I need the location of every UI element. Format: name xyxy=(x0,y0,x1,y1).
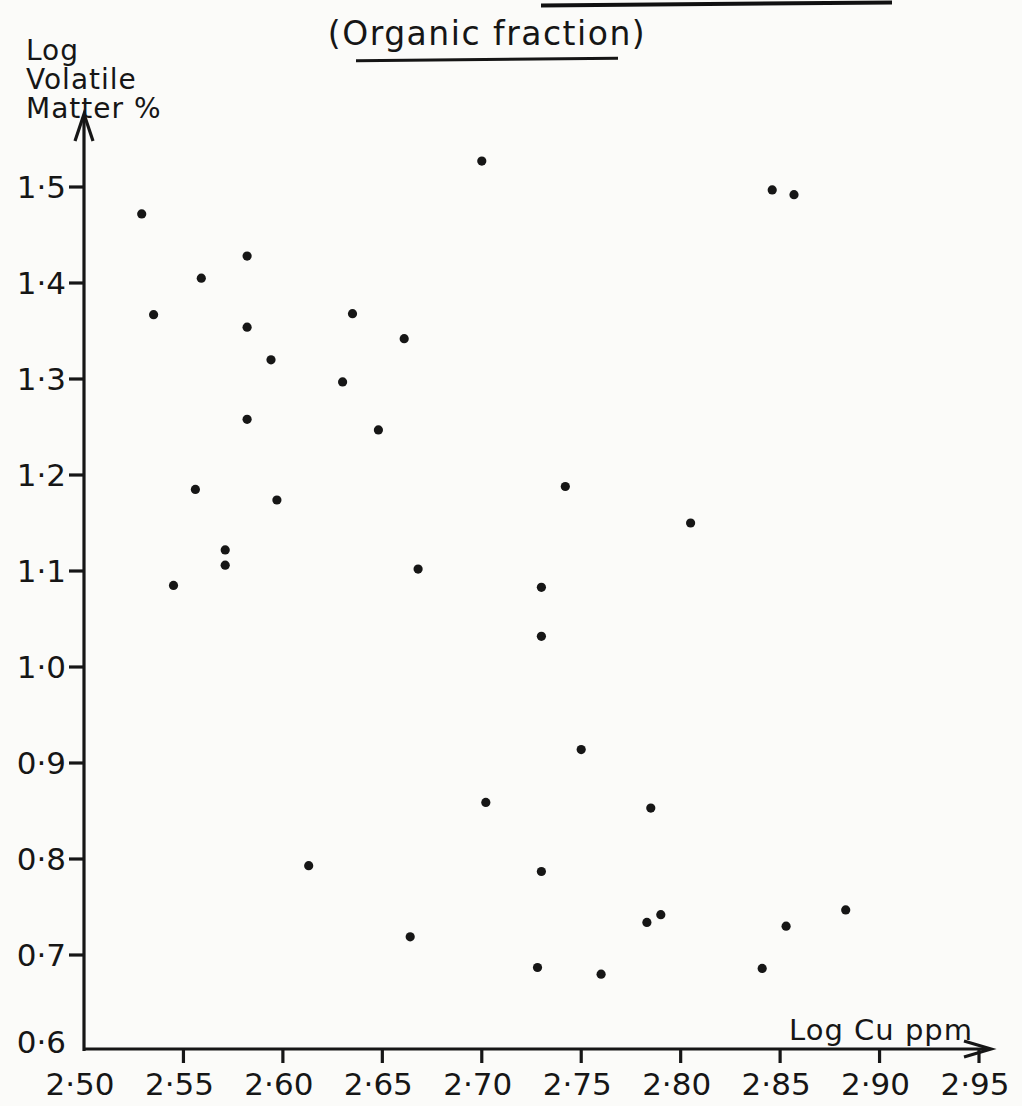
scatter-plot: Log Cu ppm 2·502·552·602·652·702·752·802… xyxy=(0,0,1022,1106)
data-point xyxy=(577,745,586,754)
data-point xyxy=(561,482,570,491)
data-point xyxy=(477,157,486,166)
x-tick-label: 2·70 xyxy=(443,1066,512,1102)
x-tick-label: 2·80 xyxy=(642,1066,711,1102)
y-tick-label: 1·1 xyxy=(17,553,66,589)
data-point xyxy=(272,495,281,504)
data-point xyxy=(782,922,791,931)
x-tick-label: 2·50 xyxy=(45,1066,114,1102)
y-tick-label: 1·4 xyxy=(17,265,66,301)
data-point xyxy=(597,970,606,979)
data-point xyxy=(533,963,542,972)
data-point xyxy=(400,334,409,343)
data-point xyxy=(789,190,798,199)
data-point xyxy=(191,485,200,494)
y-tick-label: 1·2 xyxy=(17,457,66,493)
x-axis-title: Log Cu ppm xyxy=(789,1013,973,1047)
x-tick-label: 2·85 xyxy=(742,1066,811,1102)
x-tick-label: 2·75 xyxy=(543,1066,612,1102)
x-tick-label: 2·90 xyxy=(841,1066,910,1102)
data-point xyxy=(348,309,357,318)
data-point xyxy=(758,964,767,973)
y-tick-label: 1·3 xyxy=(17,361,66,397)
data-point xyxy=(169,581,178,590)
data-point xyxy=(686,518,695,527)
data-point xyxy=(338,377,347,386)
data-point xyxy=(537,632,546,641)
y-tick-group: 0·60·70·80·91·01·11·21·31·41·5 xyxy=(17,169,84,1060)
y-tick-label: 0·6 xyxy=(17,1024,66,1060)
y-tick-label: 1·5 xyxy=(17,169,66,205)
data-point xyxy=(221,545,230,554)
data-point-group xyxy=(137,157,850,979)
x-tick-label: 2·65 xyxy=(344,1066,413,1102)
data-point xyxy=(221,561,230,570)
data-point xyxy=(149,310,158,319)
x-tick-label: 2·55 xyxy=(145,1066,214,1102)
data-point xyxy=(768,185,777,194)
data-point xyxy=(841,905,850,914)
data-point xyxy=(481,798,490,807)
data-point xyxy=(197,274,206,283)
data-point xyxy=(137,209,146,218)
data-point xyxy=(304,861,313,870)
data-point xyxy=(537,583,546,592)
data-point xyxy=(646,804,655,813)
y-tick-label: 0·8 xyxy=(17,841,66,877)
data-point xyxy=(642,918,651,927)
data-point xyxy=(243,323,252,332)
data-point xyxy=(414,565,423,574)
data-point xyxy=(537,867,546,876)
y-tick-label: 1·0 xyxy=(17,649,66,685)
data-point xyxy=(243,252,252,261)
y-tick-label: 0·7 xyxy=(17,937,66,973)
data-point xyxy=(243,415,252,424)
data-point xyxy=(656,910,665,919)
x-tick-group: 2·502·552·602·652·702·752·802·852·902·95 xyxy=(45,1049,1009,1102)
data-point xyxy=(266,355,275,364)
y-tick-label: 0·9 xyxy=(17,745,66,781)
data-point xyxy=(374,425,383,434)
x-tick-label: 2·95 xyxy=(940,1066,1009,1102)
data-point xyxy=(406,932,415,941)
x-tick-label: 2·60 xyxy=(244,1066,313,1102)
